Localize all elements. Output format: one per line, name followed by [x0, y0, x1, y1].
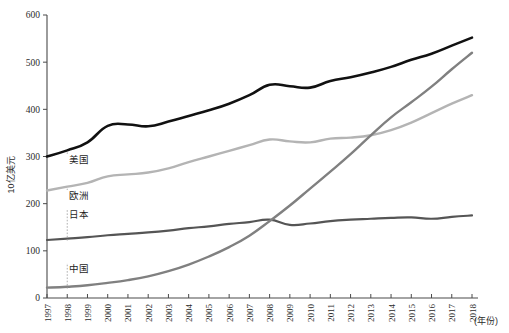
y-tick-label: 200	[26, 199, 41, 209]
x-tick-label: 2005	[204, 304, 214, 323]
x-tick-label: 2002	[144, 304, 154, 322]
x-tick-label: 1999	[83, 304, 93, 323]
x-tick-label: 2008	[265, 304, 275, 323]
series-annotations: 美国欧洲日本中国	[67, 152, 89, 288]
y-axis-title: 10亿美元	[5, 156, 16, 193]
x-tick-label: 2007	[245, 304, 255, 323]
y-tick-label: 0	[35, 293, 40, 303]
x-tick-label: 2017	[447, 304, 457, 323]
x-tick-label: 2006	[225, 304, 235, 323]
x-axis: 1997199819992000200120022003200420052006…	[43, 294, 479, 322]
x-tick-label: 1997	[43, 304, 53, 323]
series-label-美国: 美国	[69, 154, 89, 165]
y-tick-label: 400	[26, 105, 41, 115]
x-tick-label: 2016	[427, 304, 437, 323]
x-tick-label: 2009	[285, 304, 295, 323]
x-axis-title: (年份)	[474, 315, 498, 326]
x-tick-label: 2015	[407, 304, 417, 323]
x-tick-label: 2003	[164, 304, 174, 323]
x-tick-label: 2000	[103, 304, 113, 323]
y-tick-label: 300	[26, 152, 41, 162]
chart-figure: 0100200300400500600 19971998199920002001…	[0, 0, 509, 333]
y-tick-label: 500	[26, 58, 41, 68]
x-tick-label: 2012	[346, 304, 356, 322]
x-tick-label: 2014	[387, 304, 397, 323]
x-tick-label: 2010	[306, 304, 316, 323]
x-tick-label: 2011	[326, 304, 336, 322]
series-line-欧洲	[47, 95, 472, 190]
x-tick-label: 1998	[63, 304, 73, 323]
series-label-日本: 日本	[69, 209, 89, 220]
data-series-group	[47, 38, 472, 288]
y-tick-label: 600	[26, 10, 41, 20]
x-tick-label: 2001	[123, 304, 133, 322]
x-tick-label: 2013	[366, 304, 376, 323]
y-axis: 0100200300400500600	[26, 10, 47, 303]
line-chart: 0100200300400500600 19971998199920002001…	[0, 0, 509, 333]
series-label-欧洲: 欧洲	[69, 190, 89, 201]
y-tick-label: 100	[26, 246, 41, 256]
series-label-中国: 中国	[69, 263, 89, 274]
x-tick-label: 2004	[184, 304, 194, 323]
series-line-美国	[47, 38, 472, 157]
